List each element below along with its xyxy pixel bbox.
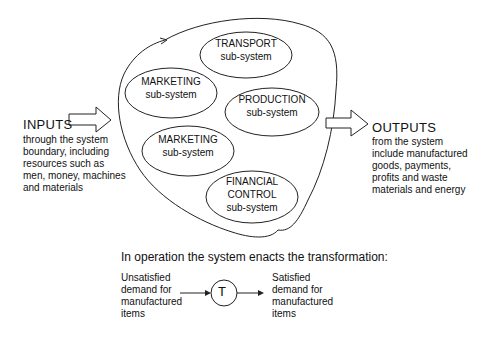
transformation-caption: In operation the system enacts the trans… (121, 251, 388, 265)
transform-to-line: Satisfied (272, 272, 310, 284)
inputs-line: men, money, machines (23, 170, 126, 182)
transform-to-line: manufactured (272, 296, 333, 308)
subsystem-production-label: sub-system (232, 107, 312, 119)
arrowhead-out-icon (258, 290, 264, 296)
subsystem-financial-name-2: CONTROL (212, 189, 292, 201)
arrowhead-in-icon (205, 290, 211, 296)
subsystem-marketing-2-name: MARKETING (148, 134, 228, 146)
inputs-line: and materials (23, 182, 83, 194)
transform-from-line: demand for (121, 284, 172, 296)
outputs-line: include manufactured (372, 148, 468, 160)
outputs-line: profits and waste (372, 172, 448, 184)
transform-to-line: demand for (272, 284, 323, 296)
subsystem-financial-name-1: FINANCIAL (212, 176, 292, 188)
transform-to-line: items (272, 308, 296, 320)
outputs-heading: OUTPUTS (372, 121, 436, 136)
subsystem-marketing-1-label: sub-system (131, 89, 211, 101)
outputs-line: goods, payments, (372, 160, 451, 172)
subsystem-financial-label: sub-system (212, 202, 292, 214)
inputs-heading: INPUTS (23, 118, 72, 133)
inputs-line: boundary, including (23, 146, 109, 158)
output-arrow-icon (326, 110, 368, 136)
subsystem-marketing-2-label: sub-system (148, 147, 228, 159)
subsystem-production-name: PRODUCTION (232, 94, 312, 106)
transform-from-line: items (121, 308, 145, 320)
outputs-line: materials and energy (372, 184, 465, 196)
transform-from-line: Unsatisfied (121, 272, 170, 284)
inputs-line: resources such as (23, 158, 104, 170)
inputs-line: through the system (23, 134, 108, 146)
subsystem-transport-label: sub-system (206, 51, 286, 63)
subsystem-marketing-1-name: MARKETING (131, 76, 211, 88)
outputs-line: from the system (372, 136, 443, 148)
input-arrow-icon (69, 107, 111, 132)
transform-from-line: manufactured (121, 296, 182, 308)
transform-symbol: T (218, 285, 226, 300)
subsystem-transport-name: TRANSPORT (206, 38, 286, 50)
